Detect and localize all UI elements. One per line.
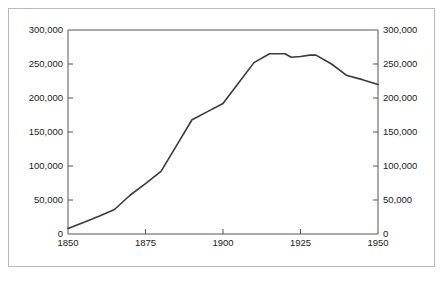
right-tick-label: 50,000 [383, 195, 441, 205]
left-tick-label: 200,000 [8, 93, 63, 103]
x-tick-label: 1925 [281, 238, 321, 248]
x-tick-label: 1875 [126, 238, 166, 248]
left-tick-label: 150,000 [8, 127, 63, 137]
left-tick-label: 300,000 [8, 25, 63, 35]
right-tick-label: 100,000 [383, 161, 441, 171]
data-series-line [68, 54, 378, 229]
left-tick-label: 50,000 [8, 195, 63, 205]
left-axis-ticks [68, 64, 73, 200]
x-tick-label: 1950 [358, 238, 398, 248]
x-tick-label: 1900 [203, 238, 243, 248]
plot-axes [68, 30, 378, 234]
right-tick-label: 300,000 [383, 25, 441, 35]
right-tick-label: 200,000 [383, 93, 441, 103]
left-tick-label: 250,000 [8, 59, 63, 69]
chart-figure: 050,000100,000150,000200,000250,000300,0… [0, 0, 447, 281]
right-tick-label: 150,000 [383, 127, 441, 137]
right-tick-label: 250,000 [383, 59, 441, 69]
left-tick-label: 100,000 [8, 161, 63, 171]
x-axis-ticks [146, 229, 301, 234]
x-tick-label: 1850 [48, 238, 88, 248]
